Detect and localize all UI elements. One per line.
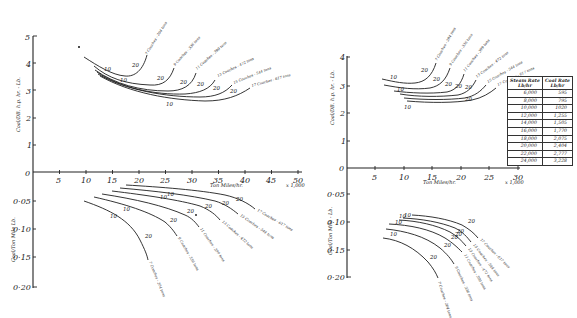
right-ytick-4: 4 xyxy=(339,53,345,62)
left-ytick-1: 1 xyxy=(27,141,32,150)
col-coal-rate: Coal RateLb/hr xyxy=(542,77,572,90)
svg-text:10: 10 xyxy=(104,66,111,72)
left-ytick-0: 0 xyxy=(25,169,30,178)
svg-text:20: 20 xyxy=(133,176,144,185)
svg-text:10: 10 xyxy=(123,206,130,212)
label-11-coaches-upper: 11 Coaches - 399 tons xyxy=(195,41,228,71)
svg-text:25: 25 xyxy=(483,173,494,182)
right-ytick-0: 0 xyxy=(339,164,344,173)
svg-text:10: 10 xyxy=(395,219,402,225)
col-steam-rate: Steam RateLb/hr xyxy=(508,77,543,90)
svg-text:10: 10 xyxy=(166,101,173,107)
curve-9-coaches-lower xyxy=(94,197,177,236)
svg-text:10: 10 xyxy=(397,86,404,92)
steam-coal-rate-table: Steam RateLb/hr Coal RateLb/hr 6,000595 … xyxy=(507,76,573,166)
left-ytick-4: 4 xyxy=(25,60,31,69)
right-ytick-020: 0·20 xyxy=(327,273,345,282)
table-row: 6,000595 xyxy=(508,90,573,98)
table-row: 18,0002,075 xyxy=(508,135,573,143)
svg-text:20: 20 xyxy=(429,254,437,260)
figure-canvas: 5 4 3 2 1 0 0·05 0·10 0·15 0·20 Coal/DB.… xyxy=(0,0,577,318)
right-ytick-1: 1 xyxy=(341,137,346,146)
svg-text:20: 20 xyxy=(443,242,451,248)
svg-text:20: 20 xyxy=(179,79,187,85)
right-lower-ylabel: Coal/Ton Mile - Lb. xyxy=(327,206,333,255)
svg-text:10: 10 xyxy=(404,212,411,218)
svg-text:20: 20 xyxy=(144,233,152,239)
table-row: 8,000795 xyxy=(508,97,573,105)
label-9-coaches-upper: 9 Coaches - 336 tons xyxy=(173,36,202,67)
svg-text:9 Coaches - 336 tons: 9 Coaches - 336 tons xyxy=(454,266,474,302)
table-row: 20,0002,404 xyxy=(508,143,573,151)
left-ytick-5: 5 xyxy=(25,33,30,42)
table-row: 22,0002,777 xyxy=(508,150,573,158)
label-7-coaches-lower: 7 Coaches - 204 tons xyxy=(148,261,166,298)
label-9-coaches-lower: 9 Coaches - 336 tons xyxy=(177,237,200,272)
left-upper-ylabel: Coal/DB. h.p. hr. - Lb. xyxy=(15,77,22,132)
svg-text:20: 20 xyxy=(204,203,212,209)
svg-text:10: 10 xyxy=(390,74,397,80)
right-xlabel: Ton Miles/hr. xyxy=(423,179,456,185)
table-row: 12,0001,255 xyxy=(508,112,573,120)
svg-text:5: 5 xyxy=(56,176,61,185)
right-ytick-3: 3 xyxy=(340,82,345,91)
label-13-coaches-lower: 13 Coaches - 472 tons xyxy=(221,220,254,250)
svg-text:5: 5 xyxy=(372,173,377,182)
table-row: 16,0001,770 xyxy=(508,127,573,135)
svg-text:20: 20 xyxy=(444,81,452,87)
right-ytick-2: 2 xyxy=(339,109,345,118)
svg-text:20: 20 xyxy=(156,75,164,81)
svg-text:20: 20 xyxy=(186,208,194,214)
svg-text:45: 45 xyxy=(265,176,276,185)
left-chart: 5 4 3 2 1 0 0·05 0·10 0·15 0·20 Coal/DB.… xyxy=(10,21,306,298)
svg-text:20: 20 xyxy=(131,62,139,68)
left-xunit: x 1,000 xyxy=(286,182,306,188)
right-xunit: x 1,000 xyxy=(505,179,525,185)
left-ytick-005: 0·05 xyxy=(13,197,31,206)
svg-text:25: 25 xyxy=(159,176,170,185)
right-upper-curves xyxy=(382,63,496,102)
svg-text:20: 20 xyxy=(212,85,220,91)
table-row: 14,0001,505 xyxy=(508,120,573,128)
label-7-coaches-upper: 7 Coaches - 204 tons xyxy=(144,21,168,56)
curve-11-coaches-lower xyxy=(102,194,199,227)
svg-text:20: 20 xyxy=(196,81,204,87)
left-ytick-020: 0·20 xyxy=(13,283,31,292)
svg-text:20: 20 xyxy=(454,83,462,89)
right-upper-ylabel: Coal/DB. h.p. hr. - Lb. xyxy=(329,70,336,125)
svg-text:10: 10 xyxy=(81,176,91,185)
left-ytick-3: 3 xyxy=(26,87,31,96)
svg-text:20: 20 xyxy=(455,173,466,182)
svg-text:15: 15 xyxy=(107,176,117,185)
table-row: 10,0001020 xyxy=(508,105,573,113)
svg-text:20: 20 xyxy=(235,196,243,202)
right-chart: 4 3 2 1 0 0·05 0·10 0·15 0·20 Coal/DB. h… xyxy=(327,26,535,318)
label-11-coaches-lower: 11 Coaches - 399 tons xyxy=(199,227,226,262)
svg-text:10: 10 xyxy=(110,213,117,219)
svg-text:10: 10 xyxy=(167,191,174,197)
svg-text:10: 10 xyxy=(404,104,411,110)
svg-text:10: 10 xyxy=(120,77,127,83)
left-upper-curves xyxy=(84,55,250,101)
svg-text:20: 20 xyxy=(432,76,440,82)
left-ytick-2: 2 xyxy=(25,114,31,123)
svg-text:30: 30 xyxy=(187,176,197,185)
svg-text:10: 10 xyxy=(399,173,409,182)
svg-text:20: 20 xyxy=(464,96,472,102)
svg-text:20: 20 xyxy=(467,218,475,224)
svg-text:20: 20 xyxy=(420,67,428,73)
svg-text:20: 20 xyxy=(456,228,464,234)
table-row: 24,0003,228 xyxy=(508,158,573,166)
left-xlabel: Ton Miles/hr. xyxy=(210,182,243,188)
right-ytick-005: 0·05 xyxy=(327,190,345,199)
left-lower-ylabel: Coal/Ton Mile Lb. xyxy=(10,217,16,262)
svg-text:20: 20 xyxy=(221,200,229,206)
svg-text:20: 20 xyxy=(169,217,177,223)
svg-text:20: 20 xyxy=(464,84,472,90)
svg-text:10: 10 xyxy=(390,231,397,237)
svg-text:7 Coaches - 204 tons: 7 Coaches - 204 tons xyxy=(437,281,453,318)
svg-text:20: 20 xyxy=(229,88,237,94)
